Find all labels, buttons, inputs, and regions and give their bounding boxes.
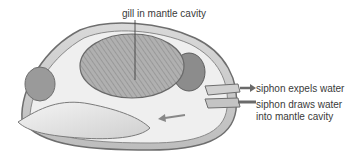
siphon-draws-label-line1: siphon draws water	[256, 99, 342, 111]
expel-arrow-icon	[240, 84, 256, 92]
anterior-adductor-muscle	[25, 67, 55, 101]
siphon-draws-label: siphon draws water into mantle cavity	[256, 99, 342, 123]
siphon-draws-label-line2: into mantle cavity	[256, 111, 342, 123]
siphon-expels-label: siphon expels water	[256, 83, 344, 95]
gill	[80, 34, 184, 98]
clam-illustration	[0, 0, 364, 161]
gill-label: gill in mantle cavity	[122, 8, 206, 20]
